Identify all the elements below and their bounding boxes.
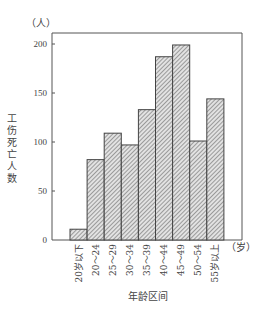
x-unit-label: （岁） — [226, 241, 256, 253]
y-axis-title-char: 人 — [7, 161, 17, 172]
bar-0 — [70, 229, 87, 240]
bar-6 — [173, 45, 190, 240]
bar-1 — [87, 160, 104, 240]
y-axis-title-char: 工 — [7, 113, 17, 124]
bar-4 — [138, 110, 155, 240]
x-category-label: 30～34 — [125, 244, 135, 276]
y-axis-title: 工伤死亡人数 — [7, 113, 17, 184]
y-tick-label: 0 — [43, 235, 48, 245]
x-category-label: 40～44 — [159, 244, 169, 276]
x-category-label: 55岁以上 — [209, 244, 220, 282]
x-category-label: 50～54 — [193, 244, 203, 276]
y-axis-title-char: 伤 — [7, 124, 17, 136]
y-tick-label: 200 — [34, 39, 48, 49]
y-tick-label: 100 — [34, 137, 48, 147]
x-category-label: 20岁以下 — [73, 244, 84, 282]
x-category-label: 45～49 — [176, 244, 186, 276]
x-axis-title: 年龄区间 — [128, 290, 168, 302]
y-axis-title-char: 亡 — [7, 148, 17, 160]
bar-8 — [207, 99, 224, 240]
y-axis-title-char: 数 — [7, 172, 17, 184]
y-axis-title-char: 死 — [7, 137, 17, 148]
y-unit-label: （人） — [26, 18, 56, 29]
x-axis-category-labels: 20岁以下20～2425～2930～3435～3940～4445～4950～54… — [73, 244, 221, 283]
bar-chart: 050100150200 20岁以下20～2425～2930～3435～3940… — [0, 0, 264, 311]
bar-5 — [156, 57, 173, 240]
bar-3 — [121, 145, 138, 240]
bar-7 — [190, 141, 207, 240]
x-category-label: 20～24 — [91, 244, 101, 276]
y-tick-label: 150 — [34, 88, 48, 98]
y-tick-label: 50 — [38, 186, 48, 196]
x-category-label: 35～39 — [142, 244, 152, 276]
bars — [70, 45, 224, 240]
x-category-label: 25～29 — [108, 244, 118, 276]
bar-2 — [104, 133, 121, 240]
